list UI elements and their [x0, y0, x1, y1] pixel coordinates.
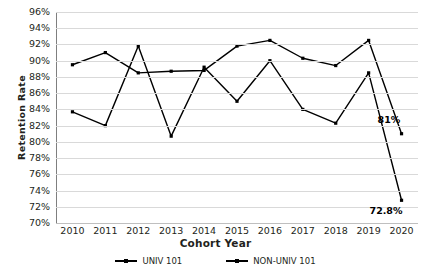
data-label: 81%	[378, 115, 401, 125]
data-point-marker	[268, 39, 271, 42]
y-tick-label: 74%	[8, 186, 50, 196]
y-tick-label: 86%	[8, 88, 50, 98]
gridline	[56, 12, 418, 13]
data-point-marker	[170, 135, 173, 138]
data-point-marker	[104, 51, 107, 54]
gridline	[56, 126, 418, 127]
series-line	[72, 46, 401, 200]
data-point-marker	[202, 66, 205, 69]
y-tick-label: 76%	[8, 169, 50, 179]
y-tick-label: 78%	[8, 153, 50, 163]
data-point-marker	[334, 122, 337, 125]
data-point-marker	[301, 57, 304, 60]
gridline	[56, 44, 418, 45]
y-tick-label: 82%	[8, 121, 50, 131]
data-point-marker	[71, 63, 74, 66]
y-tick-label: 84%	[8, 104, 50, 114]
y-tick-label: 80%	[8, 137, 50, 147]
gridline	[56, 77, 418, 78]
data-point-marker	[137, 71, 140, 74]
gridline	[56, 61, 418, 62]
legend-label: UNIV 101	[142, 256, 182, 264]
data-point-marker	[334, 64, 337, 67]
y-tick-label: 90%	[8, 56, 50, 66]
gridline	[56, 93, 418, 94]
y-tick-label: 70%	[8, 218, 50, 228]
plot-area	[56, 12, 418, 223]
gridline	[56, 142, 418, 143]
gridline	[56, 174, 418, 175]
gridline	[56, 223, 418, 224]
gridline	[56, 207, 418, 208]
data-point-marker	[367, 71, 370, 74]
legend-item: UNIV 101	[115, 256, 182, 264]
x-axis-title: Cohort Year	[0, 237, 431, 249]
data-label: 72.8%	[370, 206, 403, 216]
data-point-marker	[71, 110, 74, 113]
retention-rate-line-chart: Retention Rate 96%94%92%90%88%86%84%82%8…	[0, 0, 431, 264]
legend-item: NON-UNIV 101	[226, 256, 315, 264]
y-tick-label: 72%	[8, 202, 50, 212]
data-point-marker	[235, 100, 238, 103]
chart-legend: UNIV 101NON-UNIV 101	[0, 256, 431, 264]
x-tick-label: 2020	[380, 226, 424, 236]
y-tick-label: 94%	[8, 23, 50, 33]
legend-line-icon	[115, 260, 137, 262]
y-tick-label: 96%	[8, 7, 50, 17]
gridline	[56, 158, 418, 159]
data-point-marker	[400, 132, 403, 135]
gridline	[56, 109, 418, 110]
legend-label: NON-UNIV 101	[253, 256, 315, 264]
data-point-marker	[400, 199, 403, 202]
gridline	[56, 28, 418, 29]
y-tick-label: 92%	[8, 39, 50, 49]
data-point-marker	[367, 39, 370, 42]
gridline	[56, 191, 418, 192]
y-tick-label: 88%	[8, 72, 50, 82]
data-point-marker	[170, 70, 173, 73]
legend-line-icon	[226, 260, 248, 262]
